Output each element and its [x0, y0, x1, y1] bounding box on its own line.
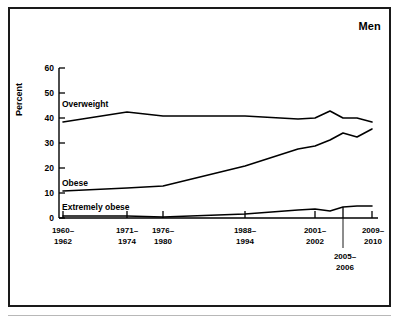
x-tick-label-1976-1980-line2: 1980	[154, 237, 172, 246]
y-tick-label-60: 60	[45, 63, 55, 73]
figure-canvas: Men Percent 60 50 40 30 20 10 0	[0, 0, 399, 321]
x-tick-label-1960-1962-line1: 1960–	[52, 226, 75, 235]
x-tick-label-1971-1974-line1: 1971–	[116, 226, 139, 235]
x-tick-label-1971-1974-line2: 1974	[118, 237, 136, 246]
x-tick-label-1960-1962-line2: 1962	[54, 237, 72, 246]
series-line-obese	[63, 129, 372, 191]
x-tick-label-2009-2010-line2: 2010	[364, 237, 382, 246]
y-tick-label-40: 40	[45, 113, 55, 123]
x-tick-label-2009-2010-line1: 2009–	[362, 226, 385, 235]
y-tick-label-50: 50	[45, 88, 55, 98]
series-label-extremely-obese: Extremely obese	[62, 202, 130, 212]
y-tick-label-0: 0	[49, 213, 54, 223]
x-tick-label-2005-2006-line1: 2005–	[334, 252, 357, 261]
x-tick-label-2005-2006-line2: 2006	[336, 263, 354, 272]
series-line-overweight	[63, 111, 372, 122]
axis-group	[59, 68, 378, 218]
line-chart: 60 50 40 30 20 10 0 1960– 1962 1971– 197…	[0, 0, 399, 321]
series-label-overweight: Overweight	[62, 99, 108, 109]
x-tick-label-1988-1994-line1: 1988–	[234, 226, 257, 235]
x-tick-label-1988-1994-line2: 1994	[236, 237, 254, 246]
y-tick-label-group: 60 50 40 30 20 10 0	[45, 63, 55, 223]
series-label-group: Overweight Obese Extremely obese	[62, 99, 130, 212]
x-tick-label-2001-2002-line1: 2001–	[304, 226, 327, 235]
series-label-obese: Obese	[62, 178, 88, 188]
y-tick-label-20: 20	[45, 163, 55, 173]
y-tick-label-10: 10	[45, 188, 55, 198]
x-tick-label-2001-2002-line2: 2002	[306, 237, 324, 246]
x-tick-label-group: 1960– 1962 1971– 1974 1976– 1980 1988– 1…	[52, 226, 385, 272]
y-tick-label-30: 30	[45, 138, 55, 148]
y-tick-group	[59, 68, 65, 218]
x-tick-label-1976-1980-line1: 1976–	[152, 226, 175, 235]
